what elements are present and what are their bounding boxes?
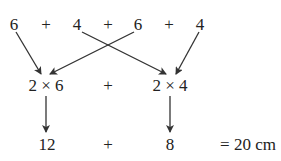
perimeter-diagram: 6 + 4 + 6 + 4 2 × 6 + 2 × 4 12 + 8 = 20 …	[0, 0, 281, 161]
bottom-right-value: 8	[166, 136, 175, 153]
top-plus-2: +	[103, 16, 113, 33]
arrow-6-to-2x6-cross	[50, 32, 134, 74]
top-plus-1: +	[41, 16, 51, 33]
middle-plus: +	[103, 77, 113, 94]
arrow-6-to-2x6	[16, 32, 41, 74]
arrow-4-to-2x4	[82, 32, 166, 74]
bottom-left-value: 12	[39, 136, 56, 153]
top-term-2: 4	[73, 16, 82, 33]
top-plus-3: +	[164, 16, 174, 33]
top-term-1: 6	[10, 16, 19, 33]
bottom-plus: +	[103, 136, 113, 153]
result-text: = 20 cm	[220, 136, 276, 153]
arrow-4-to-2x4-right	[176, 32, 199, 74]
top-term-3: 6	[134, 16, 143, 33]
middle-right-product: 2 × 4	[152, 77, 187, 94]
middle-left-product: 2 × 6	[28, 77, 63, 94]
top-term-4: 4	[196, 16, 205, 33]
